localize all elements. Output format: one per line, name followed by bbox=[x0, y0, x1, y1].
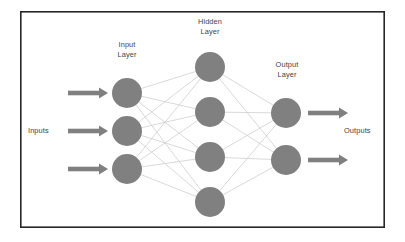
input-layer-label: Input Layer bbox=[105, 40, 149, 59]
input-arrow-3-shaft bbox=[68, 167, 99, 172]
connection-edges bbox=[127, 67, 286, 202]
hidden-layer-nodes bbox=[195, 52, 225, 217]
input-arrow-1-shaft bbox=[68, 91, 99, 96]
network-canvas bbox=[0, 0, 405, 242]
input-node-1 bbox=[112, 78, 142, 108]
outputs-label: Outputs bbox=[344, 126, 371, 136]
input-node-3 bbox=[112, 154, 142, 184]
output-layer-label: Output Layer bbox=[264, 60, 310, 79]
input-arrow-2-head bbox=[99, 126, 108, 137]
output-node-1 bbox=[271, 98, 301, 128]
output-arrow-1 bbox=[308, 108, 348, 119]
output-arrow-2-head bbox=[339, 155, 348, 166]
input-layer-label-line2: Layer bbox=[118, 50, 137, 59]
output-layer-nodes bbox=[271, 98, 301, 175]
hidden-layer-label-line2: Layer bbox=[201, 27, 220, 36]
hidden-node-1 bbox=[195, 52, 225, 82]
input-node-2 bbox=[112, 116, 142, 146]
neural-network-diagram: Input Layer Hidden Layer Output Layer In… bbox=[0, 0, 405, 242]
input-layer-nodes bbox=[112, 78, 142, 184]
inputs-label: Inputs bbox=[28, 126, 49, 136]
hidden-layer-label: Hidden Layer bbox=[188, 17, 232, 36]
hidden-layer-label-line1: Hidden bbox=[198, 17, 222, 26]
input-arrow-3 bbox=[68, 164, 108, 175]
input-arrow-2 bbox=[68, 126, 108, 137]
output-arrow-1-head bbox=[339, 108, 348, 119]
output-arrow-1-shaft bbox=[308, 111, 339, 116]
edges-hidden-to-output bbox=[210, 67, 286, 202]
input-arrow-2-shaft bbox=[68, 129, 99, 134]
input-layer-label-line1: Input bbox=[119, 40, 136, 49]
output-node-2 bbox=[271, 145, 301, 175]
output-arrow-2-shaft bbox=[308, 158, 339, 163]
output-layer-label-line1: Output bbox=[276, 60, 299, 69]
input-arrow-1 bbox=[68, 88, 108, 99]
output-layer-label-line2: Layer bbox=[278, 70, 297, 79]
hidden-node-2 bbox=[195, 97, 225, 127]
input-arrow-3-head bbox=[99, 164, 108, 175]
hidden-node-3 bbox=[195, 142, 225, 172]
output-arrow-2 bbox=[308, 155, 348, 166]
hidden-node-4 bbox=[195, 187, 225, 217]
input-arrow-1-head bbox=[99, 88, 108, 99]
